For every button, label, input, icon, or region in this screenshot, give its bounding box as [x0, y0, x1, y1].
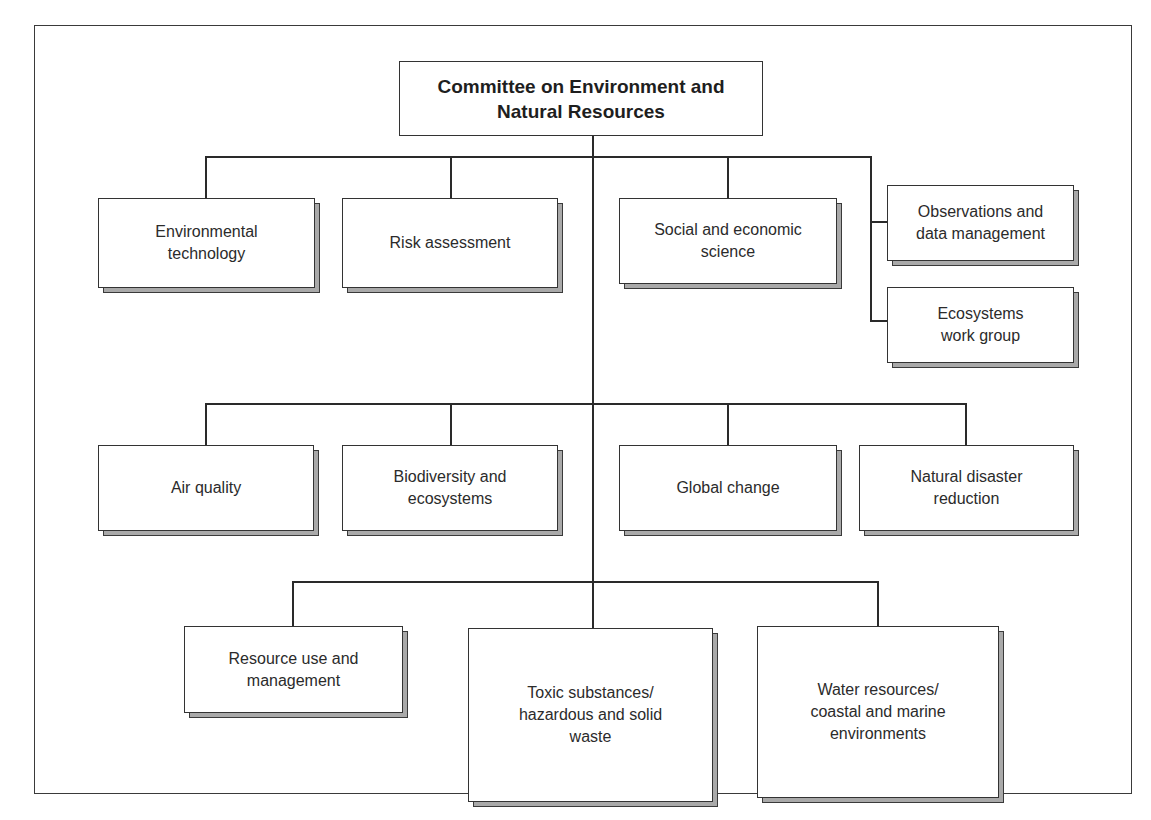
drop-water-resources — [877, 581, 879, 626]
node-label: Biodiversity and ecosystems — [386, 466, 515, 510]
node-water-resources-coastal-marine: Water resources/ coastal and marine envi… — [757, 626, 999, 798]
node-label: Natural disaster reduction — [902, 466, 1030, 510]
drop-environmental-technology — [205, 156, 207, 198]
node-ecosystems-work-group: Ecosystems work group — [887, 287, 1074, 363]
node-label: Observations and data management — [908, 201, 1053, 245]
drop-natural-disaster — [965, 403, 967, 445]
node-label: Environmental technology — [147, 221, 265, 265]
node-label: Global change — [668, 477, 787, 499]
right-branch-vertical — [870, 156, 872, 322]
spine-connector — [592, 136, 594, 583]
node-label: Toxic substances/ hazardous and solid wa… — [511, 682, 670, 748]
node-natural-disaster-reduction: Natural disaster reduction — [859, 445, 1074, 531]
node-air-quality: Air quality — [98, 445, 314, 531]
node-label: Risk assessment — [382, 232, 519, 254]
node-toxic-substances-waste: Toxic substances/ hazardous and solid wa… — [468, 628, 713, 802]
tier3-bus — [292, 581, 879, 583]
root-committee-label: Committee on Environment and Natural Res… — [437, 74, 724, 124]
node-label: Ecosystems work group — [929, 303, 1031, 347]
tier1-bus — [205, 156, 872, 158]
drop-risk-assessment — [450, 156, 452, 198]
node-biodiversity-ecosystems: Biodiversity and ecosystems — [342, 445, 558, 531]
node-observations-data-management: Observations and data management — [887, 185, 1074, 261]
node-label: Water resources/ coastal and marine envi… — [802, 679, 953, 745]
branch-observations — [870, 221, 887, 223]
node-label: Social and economic science — [646, 219, 810, 263]
node-environmental-technology: Environmental technology — [98, 198, 315, 288]
root-committee-box: Committee on Environment and Natural Res… — [399, 61, 763, 136]
drop-biodiversity — [450, 403, 452, 445]
node-global-change: Global change — [619, 445, 837, 531]
branch-ecosystems — [870, 320, 887, 322]
tier2-bus — [205, 403, 967, 405]
drop-toxic-substances — [592, 581, 594, 628]
drop-global-change — [727, 403, 729, 445]
node-label: Air quality — [163, 477, 249, 499]
node-social-economic-science: Social and economic science — [619, 198, 837, 284]
node-label: Resource use and management — [221, 648, 367, 692]
drop-air-quality — [205, 403, 207, 445]
node-resource-use-management: Resource use and management — [184, 626, 403, 713]
drop-social-economic-science — [727, 156, 729, 198]
drop-resource-use — [292, 581, 294, 626]
node-risk-assessment: Risk assessment — [342, 198, 558, 288]
